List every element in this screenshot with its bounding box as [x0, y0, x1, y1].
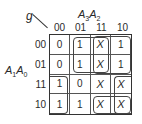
row-header: 01	[30, 59, 46, 70]
row-header: 10	[30, 99, 46, 110]
row-header: 00	[30, 39, 46, 50]
function-label: g	[26, 9, 33, 23]
cell: X	[91, 75, 111, 95]
column-header: 11	[91, 22, 112, 33]
grouping-loop	[93, 96, 131, 114]
corner-diagonal	[32, 14, 48, 28]
grouping-loop	[93, 36, 131, 74]
cell: 0	[50, 35, 70, 55]
column-header: 00	[49, 22, 70, 33]
row-variables-label: A1A0	[5, 64, 28, 78]
column-header: 10	[112, 22, 133, 33]
cell: 1	[70, 94, 90, 114]
grouping-loop	[50, 76, 68, 114]
column-variables-label: A3A2	[78, 8, 101, 22]
column-header: 01	[70, 22, 91, 33]
cell: 0	[50, 55, 70, 75]
cell: 0	[70, 75, 90, 95]
row-header: 11	[30, 79, 46, 90]
